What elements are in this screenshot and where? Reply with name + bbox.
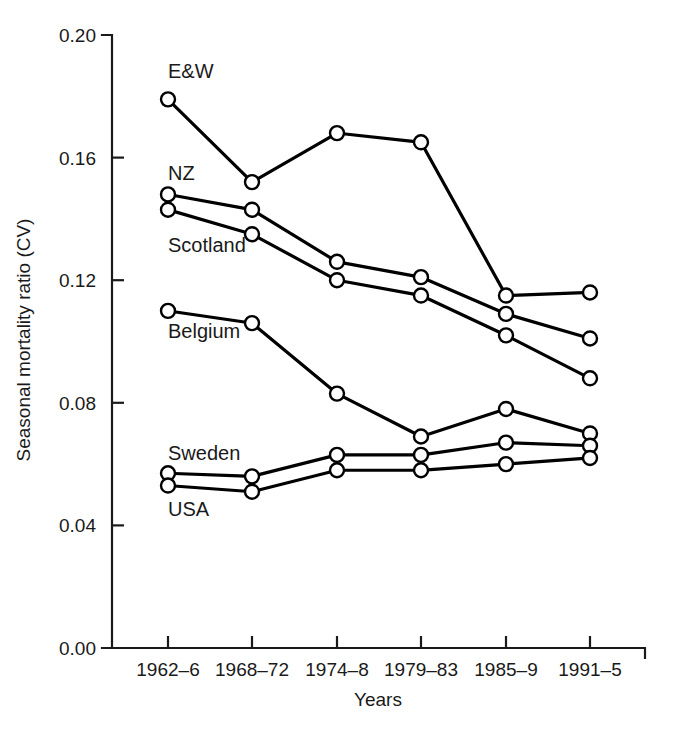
data-point-nz: [245, 203, 259, 217]
y-tick-label: 0.08: [59, 393, 96, 414]
data-point-usa: [499, 457, 513, 471]
data-point-e-w: [245, 175, 259, 189]
y-tick-label: 0.00: [59, 638, 96, 659]
data-point-nz: [330, 255, 344, 269]
chart-figure: 0.000.040.080.120.160.20 1962–61968–7219…: [0, 0, 700, 729]
data-point-e-w: [499, 289, 513, 303]
x-tick-label: 1979–83: [384, 659, 458, 680]
series-segment-sweden: [174, 474, 246, 477]
series-segment-nz: [174, 195, 246, 208]
series-segment-sweden: [258, 456, 331, 475]
x-tick-label: 1962–6: [136, 659, 199, 680]
data-point-scotland: [414, 289, 428, 303]
data-point-sweden: [245, 469, 259, 483]
y-axis-tick-labels: 0.000.040.080.120.160.20: [59, 25, 96, 659]
series-segment-belgium: [512, 411, 584, 432]
chart-series-labels: E&WNZScotlandBelgiumSwedenUSA: [168, 60, 246, 520]
y-axis-line: [102, 35, 112, 648]
data-point-scotland: [499, 328, 513, 342]
data-point-belgium: [245, 316, 259, 330]
data-point-belgium: [499, 402, 513, 416]
data-point-e-w: [161, 92, 175, 106]
data-point-nz: [161, 187, 175, 201]
series-segment-sweden: [512, 443, 584, 446]
data-point-belgium: [161, 304, 175, 318]
series-label-belgium: Belgium: [168, 320, 240, 342]
data-point-usa: [330, 463, 344, 477]
series-segment-e-w: [343, 134, 415, 142]
series-segment-nz: [427, 280, 501, 312]
data-point-scotland: [245, 227, 259, 241]
series-segment-scotland: [343, 281, 415, 294]
data-point-e-w: [583, 285, 597, 299]
data-point-nz: [583, 331, 597, 345]
x-tick-label: 1974–8: [305, 659, 368, 680]
data-point-sweden: [414, 448, 428, 462]
series-segment-scotland: [257, 237, 331, 277]
y-tick-label: 0.16: [59, 148, 96, 169]
y-tick-label: 0.12: [59, 270, 96, 291]
y-axis-title: Seasonal mortality ratio (CV): [13, 219, 34, 462]
series-segment-belgium: [257, 327, 333, 390]
series-label-nz: NZ: [168, 162, 195, 184]
data-point-nz: [414, 270, 428, 284]
x-axis-title: Years: [354, 689, 402, 710]
series-segment-usa: [427, 465, 500, 470]
data-point-nz: [499, 307, 513, 321]
data-point-scotland: [583, 371, 597, 385]
y-tick-label: 0.20: [59, 25, 96, 46]
series-label-usa: USA: [168, 498, 210, 520]
y-tick-label: 0.04: [59, 515, 96, 536]
x-axis-tick-labels: 1962–61968–721974–81979–831985–91991–5: [136, 659, 621, 680]
data-point-belgium: [330, 387, 344, 401]
x-tick-label: 1985–9: [474, 659, 537, 680]
series-segment-belgium: [427, 411, 501, 435]
data-point-scotland: [330, 273, 344, 287]
series-segment-usa: [258, 472, 331, 491]
x-tick-label: 1968–72: [215, 659, 289, 680]
data-point-usa: [161, 479, 175, 493]
data-point-usa: [245, 485, 259, 499]
x-axis-ticks: [168, 636, 590, 648]
series-label-sweden: Sweden: [168, 442, 240, 464]
data-point-sweden: [330, 448, 344, 462]
series-label-e-w: E&W: [168, 60, 214, 82]
data-point-e-w: [414, 135, 428, 149]
series-segment-usa: [174, 486, 246, 491]
data-point-scotland: [161, 203, 175, 217]
chart-axes: [102, 35, 645, 658]
y-axis-ticks: [112, 158, 124, 526]
line-chart: 0.000.040.080.120.160.20 1962–61968–7219…: [0, 0, 700, 729]
series-segment-nz: [512, 316, 584, 337]
series-segment-scotland: [511, 338, 584, 375]
series-segment-e-w: [257, 136, 332, 179]
series-label-scotland: Scotland: [168, 234, 246, 256]
series-segment-nz: [257, 213, 332, 259]
x-tick-label: 1991–5: [558, 659, 621, 680]
series-segment-sweden: [427, 444, 500, 455]
data-point-usa: [583, 451, 597, 465]
series-segment-e-w: [512, 293, 584, 296]
data-point-belgium: [414, 430, 428, 444]
series-segment-e-w: [424, 148, 503, 291]
series-segment-belgium: [342, 396, 415, 433]
chart-series-lines: [172, 104, 584, 492]
data-point-sweden: [499, 436, 513, 450]
series-segment-scotland: [174, 211, 246, 232]
data-point-usa: [414, 463, 428, 477]
series-segment-nz: [343, 263, 415, 276]
data-point-e-w: [330, 126, 344, 140]
series-segment-usa: [512, 458, 584, 463]
series-segment-scotland: [426, 298, 500, 333]
x-axis-line: [112, 648, 645, 658]
